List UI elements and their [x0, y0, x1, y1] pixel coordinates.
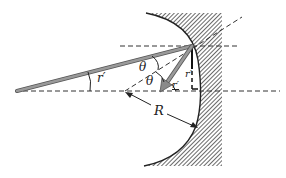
angle-arc-ray: [88, 72, 91, 91]
label-reflected-angle: r′: [172, 79, 180, 90]
label-vertical-angle: r′: [185, 68, 193, 79]
label-theta-lower: θ: [146, 74, 154, 88]
label-ray-angle: r′: [97, 71, 106, 85]
label-radius: R: [153, 103, 164, 118]
mirror-body: [144, 13, 222, 166]
mirror-diagram: r′ θ θ r′ r′ R: [0, 0, 286, 178]
label-theta-upper: θ: [139, 60, 147, 74]
